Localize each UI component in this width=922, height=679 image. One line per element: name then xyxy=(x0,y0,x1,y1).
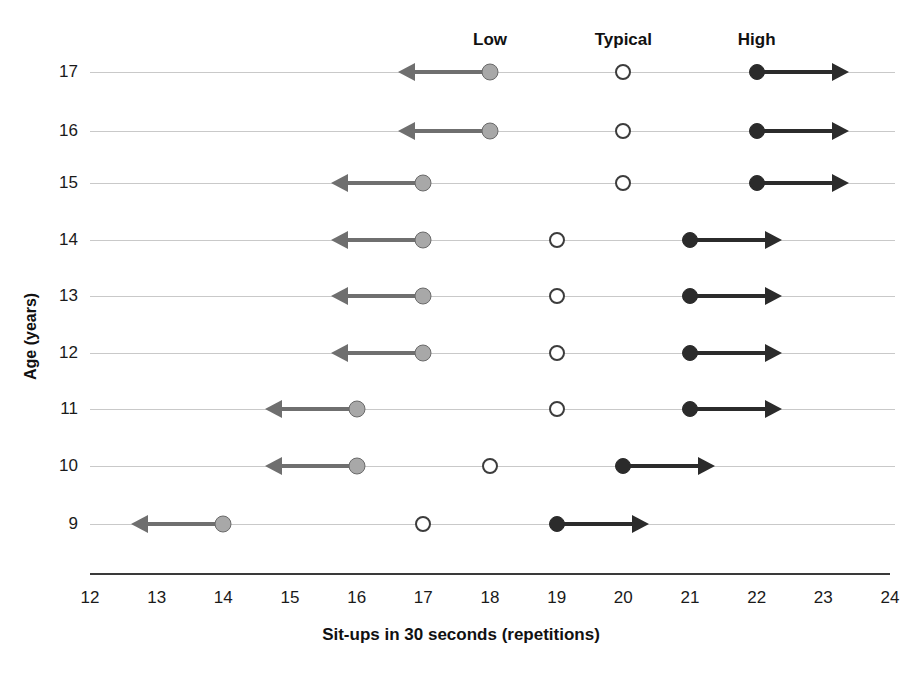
x-tick-14: 14 xyxy=(203,588,243,608)
sit-ups-age-chart: LowTypicalHigh17161514131211109121314151… xyxy=(0,0,922,679)
high-arrow-shaft-age-11 xyxy=(690,407,765,411)
low-arrow-shaft-age-16 xyxy=(415,129,490,133)
high-marker-age-13 xyxy=(682,288,698,304)
typical-marker-age-13 xyxy=(549,288,565,304)
high-marker-age-12 xyxy=(682,345,698,361)
high-marker-age-11 xyxy=(682,401,698,417)
low-arrow-shaft-age-15 xyxy=(348,181,423,185)
band-label-low: Low xyxy=(473,30,507,50)
high-arrow-head-age-14 xyxy=(765,231,782,249)
low-marker-age-17 xyxy=(482,64,499,81)
typical-marker-age-10 xyxy=(482,458,498,474)
typical-marker-age-11 xyxy=(549,401,565,417)
x-axis-title: Sit-ups in 30 seconds (repetitions) xyxy=(0,625,922,645)
low-arrow-head-age-15 xyxy=(331,174,348,192)
high-arrow-head-age-13 xyxy=(765,287,782,305)
high-marker-age-14 xyxy=(682,232,698,248)
low-arrow-head-age-11 xyxy=(265,400,282,418)
high-arrow-head-age-16 xyxy=(832,122,849,140)
typical-marker-age-15 xyxy=(615,175,631,191)
y-tick-14: 14 xyxy=(32,230,78,250)
typical-marker-age-12 xyxy=(549,345,565,361)
low-arrow-head-age-14 xyxy=(331,231,348,249)
x-tick-24: 24 xyxy=(870,588,910,608)
y-tick-10: 10 xyxy=(32,456,78,476)
high-marker-age-15 xyxy=(749,175,765,191)
x-tick-17: 17 xyxy=(403,588,443,608)
low-arrow-head-age-13 xyxy=(331,287,348,305)
low-marker-age-15 xyxy=(415,175,432,192)
high-arrow-shaft-age-17 xyxy=(757,70,832,74)
y-tick-17: 17 xyxy=(32,62,78,82)
high-arrow-shaft-age-12 xyxy=(690,351,765,355)
low-marker-age-14 xyxy=(415,232,432,249)
low-arrow-shaft-age-9 xyxy=(148,522,223,526)
high-arrow-shaft-age-13 xyxy=(690,294,765,298)
low-arrow-head-age-17 xyxy=(398,63,415,81)
high-arrow-head-age-12 xyxy=(765,344,782,362)
low-arrow-shaft-age-13 xyxy=(348,294,423,298)
high-marker-age-9 xyxy=(549,516,565,532)
x-tick-19: 19 xyxy=(537,588,577,608)
low-arrow-head-age-10 xyxy=(265,457,282,475)
low-arrow-head-age-16 xyxy=(398,122,415,140)
low-marker-age-16 xyxy=(482,123,499,140)
x-tick-16: 16 xyxy=(337,588,377,608)
low-arrow-shaft-age-10 xyxy=(282,464,357,468)
low-arrow-shaft-age-12 xyxy=(348,351,423,355)
low-marker-age-12 xyxy=(415,345,432,362)
x-tick-23: 23 xyxy=(803,588,843,608)
y-tick-16: 16 xyxy=(32,121,78,141)
high-marker-age-16 xyxy=(749,123,765,139)
high-arrow-head-age-10 xyxy=(698,457,715,475)
x-axis-line xyxy=(90,573,890,575)
low-marker-age-11 xyxy=(348,401,365,418)
high-arrow-shaft-age-16 xyxy=(757,129,832,133)
low-marker-age-13 xyxy=(415,288,432,305)
x-tick-20: 20 xyxy=(603,588,643,608)
y-tick-11: 11 xyxy=(32,399,78,419)
high-arrow-shaft-age-15 xyxy=(757,181,832,185)
high-arrow-shaft-age-10 xyxy=(623,464,698,468)
x-tick-12: 12 xyxy=(70,588,110,608)
high-arrow-head-age-9 xyxy=(632,515,649,533)
high-arrow-shaft-age-14 xyxy=(690,238,765,242)
x-tick-13: 13 xyxy=(137,588,177,608)
high-marker-age-10 xyxy=(615,458,631,474)
typical-marker-age-9 xyxy=(415,516,431,532)
x-tick-21: 21 xyxy=(670,588,710,608)
low-marker-age-9 xyxy=(215,516,232,533)
low-arrow-head-age-9 xyxy=(131,515,148,533)
low-arrow-head-age-12 xyxy=(331,344,348,362)
band-label-high: High xyxy=(738,30,776,50)
x-tick-18: 18 xyxy=(470,588,510,608)
y-axis-title: Age (years) xyxy=(22,293,40,380)
typical-marker-age-16 xyxy=(615,123,631,139)
typical-marker-age-17 xyxy=(615,64,631,80)
low-arrow-shaft-age-14 xyxy=(348,238,423,242)
x-tick-22: 22 xyxy=(737,588,777,608)
x-tick-15: 15 xyxy=(270,588,310,608)
high-marker-age-17 xyxy=(749,64,765,80)
low-marker-age-10 xyxy=(348,458,365,475)
y-tick-15: 15 xyxy=(32,173,78,193)
band-label-typical: Typical xyxy=(595,30,652,50)
high-arrow-head-age-15 xyxy=(832,174,849,192)
high-arrow-head-age-11 xyxy=(765,400,782,418)
typical-marker-age-14 xyxy=(549,232,565,248)
low-arrow-shaft-age-17 xyxy=(415,70,490,74)
low-arrow-shaft-age-11 xyxy=(282,407,357,411)
y-tick-9: 9 xyxy=(32,514,78,534)
high-arrow-head-age-17 xyxy=(832,63,849,81)
high-arrow-shaft-age-9 xyxy=(557,522,632,526)
